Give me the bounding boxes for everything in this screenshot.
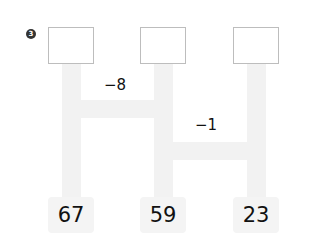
operation-label-1: −8 xyxy=(104,78,126,93)
ladder-path-column-3 xyxy=(247,64,266,198)
answer-box-2[interactable] xyxy=(140,27,186,64)
ladder-rung-2 xyxy=(154,142,266,160)
start-number-3: 23 xyxy=(233,197,279,233)
operation-label-2: −1 xyxy=(195,118,217,133)
ladder-rung-1 xyxy=(62,100,173,118)
ladder-path-column-2 xyxy=(154,64,173,198)
answer-box-1[interactable] xyxy=(48,27,94,64)
answer-box-3[interactable] xyxy=(233,27,279,64)
start-number-1: 67 xyxy=(48,197,94,233)
start-number-2: 59 xyxy=(140,197,186,233)
ladder-path-column-1 xyxy=(62,64,81,198)
problem-number-badge: 3 xyxy=(26,29,36,39)
